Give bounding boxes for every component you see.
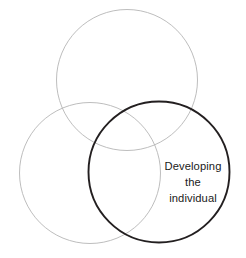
right-circle-highlighted bbox=[89, 102, 230, 243]
right-circle-label-line-3: individual bbox=[169, 192, 217, 204]
left-circle bbox=[20, 103, 161, 244]
right-circle-label-line-1: Developing bbox=[165, 160, 222, 172]
right-circle-label-line-2: the bbox=[185, 176, 201, 188]
venn-diagram-canvas: Developing the individual bbox=[0, 0, 246, 258]
top-circle bbox=[57, 10, 198, 151]
venn-diagram: Developing the individual bbox=[0, 0, 246, 258]
